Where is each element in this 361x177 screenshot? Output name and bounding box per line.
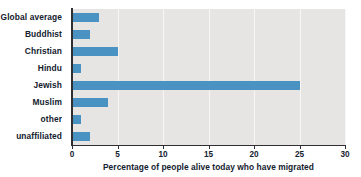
bar-row [72, 43, 345, 60]
y-axis-label-hindu: Hindu [38, 64, 66, 72]
y-axis-category-labels: Global average Buddhist Christian Hindu … [0, 9, 66, 145]
bar-buddhist [72, 30, 90, 39]
bar-row [72, 128, 345, 145]
x-tick-label-0: 0 [70, 150, 75, 159]
bar-chart-figure: Global average Buddhist Christian Hindu … [0, 0, 361, 177]
x-tick-25 [300, 145, 301, 149]
x-tick-30 [345, 145, 346, 149]
x-tick-label-5: 5 [115, 150, 120, 159]
y-axis-line [71, 8, 73, 146]
y-axis-label-global-average: Global average [1, 13, 66, 21]
x-tick-label-15: 15 [204, 150, 213, 159]
y-axis-label-unaffiliated: unaffiliated [16, 132, 66, 140]
y-axis-label-muslim: Muslim [33, 98, 66, 106]
plot-area [72, 9, 345, 145]
x-tick-label-10: 10 [158, 150, 167, 159]
x-tick-5 [118, 145, 119, 149]
bar-other [72, 115, 81, 124]
bar-row [72, 94, 345, 111]
bar-jewish [72, 81, 300, 90]
x-tick-20 [254, 145, 255, 149]
x-tick-label-25: 25 [295, 150, 304, 159]
gridline-30 [345, 9, 346, 145]
bar-row [72, 77, 345, 94]
bar-row [72, 9, 345, 26]
bar-hindu [72, 64, 81, 73]
bar-series [72, 9, 345, 145]
y-axis-label-other: other [41, 115, 66, 123]
x-tick-label-20: 20 [249, 150, 258, 159]
x-tick-label-30: 30 [340, 150, 349, 159]
bar-row [72, 111, 345, 128]
x-tick-0 [72, 145, 73, 149]
bar-muslim [72, 98, 108, 107]
y-axis-label-christian: Christian [25, 47, 66, 55]
bar-row [72, 60, 345, 77]
bar-unaffiliated [72, 132, 90, 141]
y-axis-label-buddhist: Buddhist [25, 30, 66, 38]
y-axis-label-jewish: Jewish [33, 81, 66, 89]
x-axis-title: Percentage of people alive today who hav… [72, 162, 345, 172]
bar-global-average [72, 13, 99, 22]
bar-christian [72, 47, 118, 56]
x-tick-15 [209, 145, 210, 149]
bar-row [72, 26, 345, 43]
x-tick-10 [163, 145, 164, 149]
